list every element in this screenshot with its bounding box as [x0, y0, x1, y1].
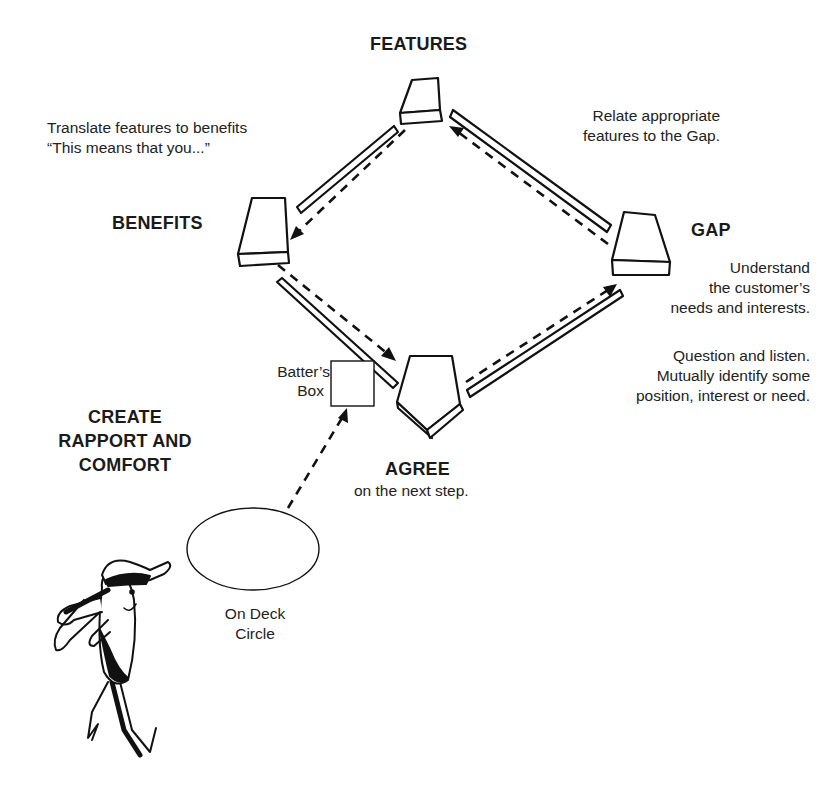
gap-to-features-note-line-1: Relate appropriate: [583, 106, 720, 126]
features-base-icon: [400, 78, 442, 124]
gap-note-line-1: Understand: [670, 258, 810, 278]
agree-home-plate-icon: [397, 356, 463, 438]
agree-to-gap-note: Question and listen. Mutually identify s…: [636, 346, 810, 406]
benefits-note: Translate features to benefits “This mea…: [47, 118, 247, 158]
agree-to-gap-note-line-1: Question and listen.: [636, 346, 810, 366]
dashed-arrow-deck-to-box: [288, 408, 348, 508]
batters-box-label-line-2: Box: [277, 381, 330, 400]
gap-title: GAP: [691, 220, 731, 241]
features-title: FEATURES: [370, 34, 467, 55]
batters-box-label-line-1: Batter’s: [277, 362, 330, 381]
create-rapport-title-line-3: COMFORT: [45, 453, 205, 477]
on-deck-circle-label-line-2: Circle: [210, 624, 300, 644]
agree-note: on the next step.: [354, 481, 469, 501]
dashed-arrow-benefits-to-agree: [278, 265, 396, 361]
create-rapport-title-line-1: CREATE: [45, 405, 205, 429]
gap-base-icon: [612, 212, 670, 275]
agree-to-gap-note-line-3: position, interest or need.: [636, 386, 810, 406]
gap-note-line-3: needs and interests.: [670, 298, 810, 318]
benefits-note-line-1: Translate features to benefits: [47, 118, 247, 138]
create-rapport-title: CREATE RAPPORT AND COMFORT: [45, 405, 205, 477]
benefits-note-line-2: “This means that you...”: [47, 138, 247, 158]
gap-to-features-note: Relate appropriate features to the Gap.: [583, 106, 720, 146]
gap-note: Understand the customer’s needs and inte…: [670, 258, 810, 318]
on-deck-circle: [187, 508, 319, 590]
batters-box: [331, 361, 374, 406]
on-deck-circle-label-line-1: On Deck: [210, 604, 300, 624]
gap-to-features-note-line-2: features to the Gap.: [583, 126, 720, 146]
batters-box-label: Batter’s Box: [277, 362, 330, 400]
benefits-title: BENEFITS: [112, 213, 203, 234]
on-deck-circle-label: On Deck Circle: [210, 604, 300, 644]
path-features-to-benefits: [297, 126, 398, 213]
benefits-base-icon: [238, 198, 289, 266]
path-agree-to-gap: [467, 290, 623, 397]
dashed-arrow-agree-to-gap: [466, 284, 617, 382]
agree-title: AGREE: [385, 459, 450, 480]
create-rapport-title-line-2: RAPPORT AND: [45, 429, 205, 453]
agree-to-gap-note-line-2: Mutually identify some: [636, 366, 810, 386]
gap-note-line-2: the customer’s: [670, 278, 810, 298]
baseball-batter-icon: [55, 561, 171, 755]
dashed-arrow-features-to-benefits: [290, 130, 405, 240]
